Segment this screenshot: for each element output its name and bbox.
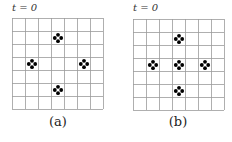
particle-cluster: [53, 33, 63, 43]
particle-dot: [82, 59, 86, 63]
particle-dot: [203, 66, 207, 70]
particle-dot: [82, 65, 86, 69]
particle-dot: [203, 60, 207, 64]
particle-dot: [177, 60, 181, 64]
particle-dot: [174, 89, 178, 93]
particle-dot: [56, 39, 60, 43]
particle-dot: [177, 40, 181, 44]
particle-dot: [180, 63, 184, 67]
panel-caption: (b): [120, 114, 232, 129]
particle-cluster: [200, 60, 210, 70]
particle-cluster: [174, 60, 184, 70]
particle-dot: [177, 92, 181, 96]
particle-cluster: [27, 59, 37, 69]
particle-cluster: [79, 59, 89, 69]
particle-dot: [151, 66, 155, 70]
particle-dot: [53, 36, 57, 40]
particle-cluster: [148, 60, 158, 70]
particle-cluster: [174, 86, 184, 96]
particle-dot: [59, 88, 63, 92]
particle-dot: [177, 66, 181, 70]
particle-dot: [180, 37, 184, 41]
particle-dot: [53, 88, 57, 92]
panel-a: t = 0 (a): [0, 0, 116, 142]
particle-dot: [151, 60, 155, 64]
particle-dot: [200, 63, 204, 67]
particle-dot: [30, 65, 34, 69]
particle-dot: [177, 86, 181, 90]
particle-dot: [33, 62, 37, 66]
particle-dot: [27, 62, 31, 66]
particle-dot: [206, 63, 210, 67]
particle-dot: [79, 62, 83, 66]
particle-dot: [56, 85, 60, 89]
particle-dot: [174, 63, 178, 67]
particle-dot: [59, 36, 63, 40]
particle-dot: [30, 59, 34, 63]
particle-dot: [85, 62, 89, 66]
panel-b: t = 0 (b): [116, 0, 232, 142]
panel-caption: (a): [0, 114, 116, 129]
particle-cluster: [53, 85, 63, 95]
particle-dot: [174, 37, 178, 41]
particle-dot: [56, 91, 60, 95]
particle-dot: [148, 63, 152, 67]
particle-dot: [56, 33, 60, 37]
particle-dot: [180, 89, 184, 93]
particle-dot: [154, 63, 158, 67]
particle-cluster: [174, 34, 184, 44]
particle-dot: [177, 34, 181, 38]
